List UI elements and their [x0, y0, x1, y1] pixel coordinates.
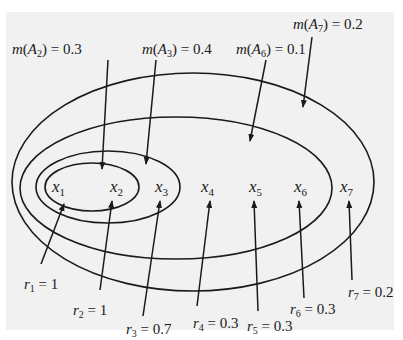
set-ellipses [12, 73, 374, 291]
possibility-label-r3: r3 = 0.7 [126, 322, 172, 337]
diagram-page: x1x2x3x4x5x6x7 m(A2) = 0.3m(A3) = 0.4m(A… [0, 0, 403, 340]
mass-label-a3: m(A3) = 0.4 [142, 42, 212, 57]
arrow-possibility-r2 [100, 201, 112, 290]
mass-label-a6: m(A6) = 0.1 [236, 42, 306, 57]
arrow-possibility-r7 [349, 201, 352, 280]
possibility-label-r2: r2 = 1 [73, 303, 107, 318]
element-x4: x4 [201, 178, 214, 195]
possibility-label-r4: r4 = 0.3 [193, 316, 239, 331]
element-x2: x2 [110, 178, 123, 195]
arrow-mass-a2 [102, 60, 108, 169]
arrow-possibility-r1 [41, 204, 64, 264]
possibility-label-r7: r7 = 0.2 [348, 285, 394, 300]
possibility-label-r1: r1 = 1 [24, 277, 58, 292]
element-x7: x7 [340, 178, 353, 195]
possibility-label-r5: r5 = 0.3 [247, 319, 293, 334]
element-x1: x1 [52, 178, 65, 195]
mass-label-a2: m(A2) = 0.3 [12, 42, 82, 57]
element-x6: x6 [294, 178, 307, 195]
set-ellipse-a6 [20, 117, 332, 259]
mass-label-a7: m(A7) = 0.2 [293, 17, 363, 32]
possibility-label-r6: r6 = 0.3 [290, 302, 336, 317]
arrow-possibility-r6 [299, 201, 304, 298]
element-x5: x5 [249, 178, 262, 195]
arrow-possibility-r5 [254, 201, 258, 311]
element-x3: x3 [155, 178, 168, 195]
arrows [41, 37, 352, 316]
